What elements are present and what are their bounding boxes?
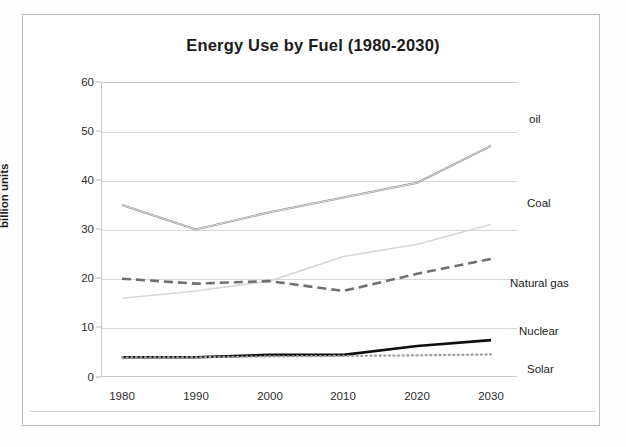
series-label-nuclear: Nuclear [519,325,559,337]
series-line-oil [122,146,491,230]
series-label-solar: Solar [527,363,554,375]
series-lines [0,0,626,447]
page-bottom-rule [30,411,596,412]
series-label-coal: Coal [527,197,551,209]
chart-page: Energy Use by Fuel (1980-2030) 60 50 40 … [0,0,626,447]
series-label-oil: oil [529,113,541,125]
series-label-natural-gas: Natural gas [510,277,569,289]
series-line-oil-inner [122,146,491,230]
series-line-natural-gas [122,259,491,291]
